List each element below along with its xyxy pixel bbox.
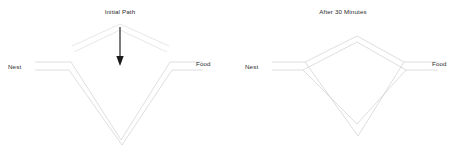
food-label-left: Food — [196, 60, 211, 67]
original-trail-outer-line — [305, 62, 404, 136]
nest-label-left: Nest — [8, 63, 21, 70]
lower-trail-outer-line — [35, 62, 203, 140]
downward-arrow-icon — [116, 27, 123, 66]
panel-title-initial-path: Initial Path — [105, 8, 136, 15]
original-trail-inner-line — [303, 70, 406, 124]
shortcut-trail-outer-line — [272, 36, 438, 62]
panel-initial-path: Initial Path Nest Food — [8, 8, 211, 145]
arrow-head — [116, 56, 123, 66]
ant-trail-figure: Initial Path Nest Food After 30 Minutes … — [0, 0, 463, 146]
panel-after-30-minutes: After 30 Minutes Nest Food — [245, 8, 447, 136]
food-label-right: Food — [432, 60, 447, 67]
shortcut-trail-inner-line — [272, 42, 438, 70]
nest-label-right: Nest — [245, 63, 258, 70]
lower-trail-inner-line — [35, 70, 203, 145]
panel-title-after-30-minutes: After 30 Minutes — [319, 8, 366, 15]
